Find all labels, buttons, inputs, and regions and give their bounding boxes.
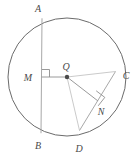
circle-diagram-canvas: A B C D M N Q — [0, 0, 138, 157]
segment-qc — [67, 72, 116, 78]
label-point-d: D — [74, 143, 83, 154]
right-angle-m-icon — [42, 70, 50, 78]
geometry-figure: A B C D M N Q — [0, 0, 138, 157]
label-point-n: N — [97, 106, 106, 117]
label-point-c: C — [123, 70, 130, 81]
center-point-q — [65, 75, 69, 79]
label-point-b: B — [35, 140, 41, 151]
chord-ab — [41, 18, 42, 133]
label-point-q: Q — [62, 61, 70, 72]
right-angle-n-icon — [96, 91, 105, 106]
label-point-a: A — [34, 3, 42, 14]
label-point-m: M — [23, 72, 33, 83]
